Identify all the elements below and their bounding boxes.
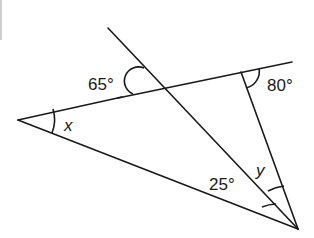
label-25: 25° <box>209 175 235 194</box>
geometry-diagram: 65° 80° 25° x y <box>0 0 314 238</box>
label-x: x <box>63 116 73 135</box>
label-y: y <box>255 161 266 180</box>
angle-arc-25 <box>262 204 276 207</box>
angle-arc-65 <box>124 67 144 94</box>
diagonal-line <box>108 28 298 229</box>
label-80: 80° <box>267 76 293 95</box>
angle-arc-y <box>268 186 284 191</box>
label-65: 65° <box>88 75 114 94</box>
